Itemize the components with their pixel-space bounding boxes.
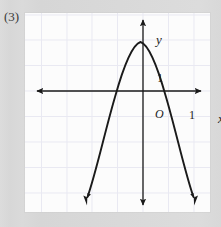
x-axis-tick-label-1: 1 [189,109,195,121]
item-number-label: (3) [4,10,19,23]
grid-lines [25,13,210,212]
x-axis-label: x [218,112,221,125]
y-axis-label: y [156,33,162,46]
plot-panel: y x O 1 1 [25,13,210,212]
origin-label: O [155,108,164,120]
parabola-left-arrowhead [83,193,91,206]
coordinate-plane-svg [25,13,210,212]
y-axis-tick-label-1: 1 [157,72,163,84]
figure-container: (3) [0,0,221,227]
